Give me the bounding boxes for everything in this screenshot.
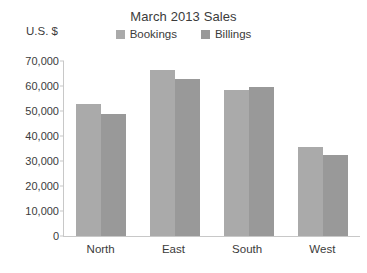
legend-item-billings: Billings — [201, 28, 251, 40]
bar-west-bookings — [298, 147, 323, 236]
y-tick-label: 50,000 — [25, 105, 59, 117]
x-tick-label: North — [87, 243, 115, 255]
bar-south-billings — [249, 87, 274, 236]
bar-north-billings — [101, 114, 126, 237]
bar-groups — [64, 61, 360, 236]
legend-swatch-icon — [201, 30, 210, 39]
bar-group — [298, 61, 348, 236]
y-tick-label: 10,000 — [25, 205, 59, 217]
y-tick-label: 40,000 — [25, 130, 59, 142]
bar-group — [224, 61, 274, 236]
chart-title: March 2013 Sales — [0, 9, 367, 24]
x-tick-label: West — [309, 243, 335, 255]
legend-swatch-icon — [116, 30, 125, 39]
x-tick-label: East — [162, 243, 185, 255]
plot-area: 010,00020,00030,00040,00050,00060,00070,… — [63, 61, 360, 237]
x-axis-labels: NorthEastSouthWest — [63, 243, 359, 255]
bar-south-bookings — [224, 90, 249, 236]
bar-group — [150, 61, 200, 236]
legend-item-bookings: Bookings — [116, 28, 177, 40]
y-tick-label: 20,000 — [25, 180, 59, 192]
legend-label-billings: Billings — [215, 28, 251, 40]
bar-east-bookings — [150, 70, 175, 236]
y-tick-label: 30,000 — [25, 155, 59, 167]
y-axis-title: U.S. $ — [26, 25, 58, 37]
bar-north-bookings — [76, 104, 101, 237]
legend-label-bookings: Bookings — [130, 28, 177, 40]
bar-west-billings — [323, 155, 348, 236]
x-tick-label: South — [232, 243, 262, 255]
bar-chart: March 2013 Sales Bookings Billings U.S. … — [0, 0, 367, 273]
bar-east-billings — [175, 79, 200, 237]
y-tick-label: 70,000 — [25, 55, 59, 67]
y-tick-label: 0 — [53, 230, 59, 242]
bar-group — [76, 61, 126, 236]
y-tick-label: 60,000 — [25, 80, 59, 92]
